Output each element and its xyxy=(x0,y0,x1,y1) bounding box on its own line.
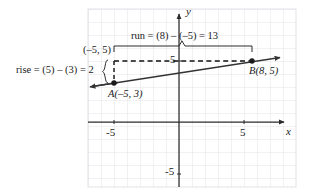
x-tick-label-neg5: -5 xyxy=(106,127,115,138)
point-a-dot xyxy=(111,80,116,85)
point-b-label: B(8, 5) xyxy=(249,66,278,77)
x-tick-label-5: 5 xyxy=(240,127,246,138)
run-annotation: run = (8) – (–5) = 13 xyxy=(131,31,218,42)
y-tick-label-neg5: -5 xyxy=(165,166,174,177)
rise-annotation: rise = (5) – (3) = 2 xyxy=(16,65,94,76)
point-b-dot xyxy=(249,58,254,63)
y-tick-label-5: 5 xyxy=(170,54,176,65)
axis-x-label: x xyxy=(286,126,291,137)
figure-container: y x -5 5 5 -5 run = (8) – (–5) = 13 rise… xyxy=(0,0,312,196)
axis-y-label: y xyxy=(186,6,191,17)
point-corner-label: (–5, 5) xyxy=(83,45,111,56)
point-a-label: A(–5, 3) xyxy=(108,89,142,100)
